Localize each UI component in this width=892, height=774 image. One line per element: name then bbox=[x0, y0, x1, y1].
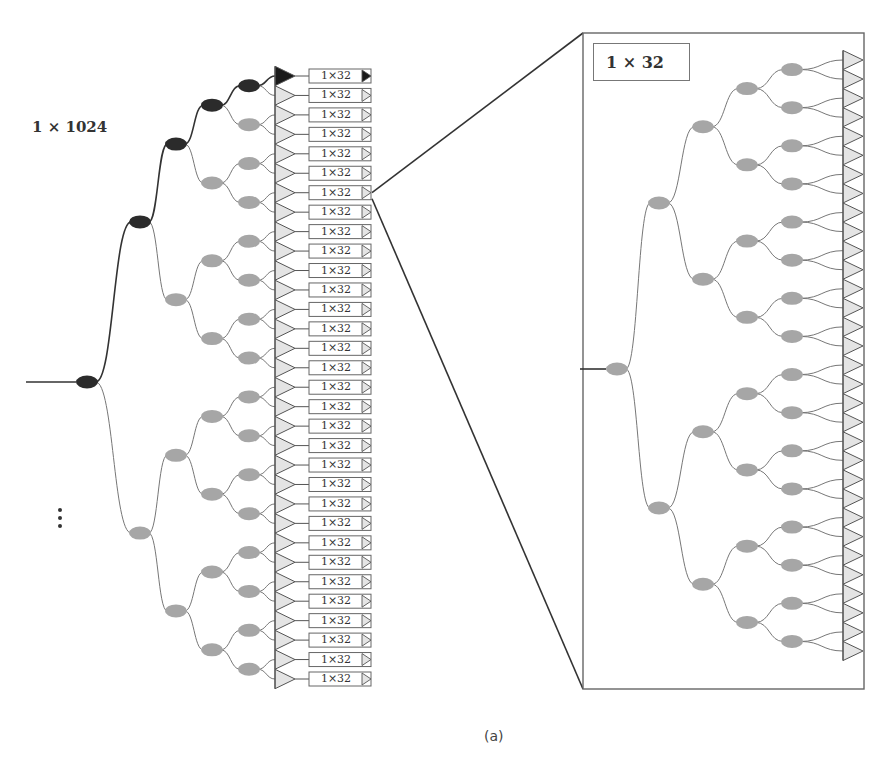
output-triangle bbox=[275, 378, 295, 397]
waveguide-branch bbox=[185, 572, 203, 611]
switch-node bbox=[781, 216, 803, 229]
waveguide-branch bbox=[258, 669, 275, 679]
output-triangle bbox=[275, 416, 295, 435]
switch-node bbox=[238, 546, 260, 559]
waveguide-branch bbox=[258, 319, 275, 329]
module-label: 1×32 bbox=[311, 205, 361, 219]
left-1x1024-tree bbox=[26, 66, 295, 688]
switch-node bbox=[238, 624, 260, 637]
switch-node bbox=[238, 390, 260, 403]
switch-node bbox=[781, 330, 803, 343]
waveguide-branch bbox=[96, 382, 131, 533]
switch-node bbox=[781, 368, 803, 381]
waveguide-branch bbox=[258, 280, 275, 290]
waveguide-branch bbox=[258, 543, 275, 553]
zoom-connector-lines bbox=[372, 33, 583, 689]
module-label: 1×32 bbox=[311, 575, 361, 589]
active-switch-node bbox=[76, 376, 98, 389]
switch-node bbox=[781, 406, 803, 419]
waveguide-branch bbox=[258, 154, 275, 164]
switch-node bbox=[736, 540, 758, 553]
output-triangle bbox=[275, 144, 295, 163]
waveguide-branch bbox=[258, 475, 275, 485]
switch-node bbox=[781, 635, 803, 648]
waveguide-branch bbox=[185, 261, 203, 300]
output-triangle bbox=[275, 319, 295, 338]
module-label: 1×32 bbox=[311, 341, 361, 355]
output-triangle bbox=[275, 553, 295, 572]
waveguide-branch bbox=[258, 202, 275, 212]
switch-node bbox=[692, 425, 714, 438]
output-triangle bbox=[275, 475, 295, 494]
waveguide-branch bbox=[258, 591, 275, 601]
switch-node bbox=[201, 643, 223, 656]
waveguide-branch bbox=[149, 533, 167, 611]
switch-node bbox=[201, 254, 223, 267]
waveguide-branch bbox=[149, 222, 167, 300]
switch-node bbox=[648, 502, 670, 515]
module-label: 1×32 bbox=[311, 127, 361, 141]
active-switch-node bbox=[129, 215, 151, 228]
output-triangle bbox=[275, 397, 295, 416]
output-triangle bbox=[275, 261, 295, 280]
main-size-label: 1 × 1024 bbox=[32, 118, 107, 136]
switch-node bbox=[781, 101, 803, 114]
waveguide-branch bbox=[258, 232, 275, 242]
output-triangle bbox=[275, 280, 295, 299]
tree-diagram-canvas bbox=[0, 0, 892, 774]
waveguide-branch bbox=[258, 387, 275, 397]
waveguide-branch bbox=[221, 553, 240, 572]
waveguide-branch bbox=[258, 553, 275, 563]
output-triangle bbox=[275, 86, 295, 105]
module-label: 1×32 bbox=[311, 497, 361, 511]
output-triangle bbox=[275, 611, 295, 630]
switch-node bbox=[165, 604, 187, 617]
vertical-ellipsis-icon bbox=[55, 508, 65, 534]
switch-node bbox=[781, 254, 803, 267]
waveguide-branch bbox=[221, 164, 240, 183]
module-label: 1×32 bbox=[311, 400, 361, 414]
waveguide-branch bbox=[258, 465, 275, 475]
switch-node bbox=[238, 468, 260, 481]
waveguide-branch bbox=[185, 144, 203, 183]
switch-node bbox=[781, 482, 803, 495]
module-label: 1×32 bbox=[311, 380, 361, 394]
waveguide-branch bbox=[258, 125, 275, 135]
active-output-triangle bbox=[275, 66, 295, 85]
module-label: 1×32 bbox=[311, 225, 361, 239]
switch-node bbox=[692, 578, 714, 591]
module-label: 1×32 bbox=[311, 653, 361, 667]
module-label: 1×32 bbox=[311, 186, 361, 200]
waveguide-branch bbox=[221, 572, 240, 591]
output-triangle bbox=[275, 358, 295, 377]
switch-node bbox=[238, 196, 260, 209]
switch-node bbox=[781, 292, 803, 305]
waveguide-branch bbox=[221, 261, 240, 280]
waveguide-branch bbox=[221, 650, 240, 669]
waveguide-branch bbox=[221, 319, 240, 338]
switch-node bbox=[736, 158, 758, 171]
switch-node bbox=[238, 663, 260, 676]
binary-tree-switch-diagram: 1 × 1024 1×321×321×321×321×321×321×321×3… bbox=[0, 0, 892, 774]
switch-node bbox=[781, 559, 803, 572]
waveguide-branch bbox=[258, 348, 275, 358]
module-label: 1×32 bbox=[311, 439, 361, 453]
waveguide-branch bbox=[221, 416, 240, 435]
switch-node bbox=[201, 566, 223, 579]
switch-node bbox=[781, 63, 803, 76]
output-triangle bbox=[275, 436, 295, 455]
waveguide-branch bbox=[221, 630, 240, 649]
switch-node bbox=[781, 521, 803, 534]
zoomed-1x32-panel bbox=[580, 33, 864, 689]
switch-node bbox=[201, 332, 223, 345]
output-triangle bbox=[275, 650, 295, 669]
module-label: 1×32 bbox=[311, 302, 361, 316]
waveguide-branch bbox=[258, 309, 275, 319]
output-triangle bbox=[275, 494, 295, 513]
waveguide-branch bbox=[185, 300, 203, 339]
waveguide-branch bbox=[258, 76, 275, 86]
switch-node bbox=[736, 463, 758, 476]
module-label: 1×32 bbox=[311, 283, 361, 297]
module-label: 1×32 bbox=[311, 108, 361, 122]
switch-node bbox=[692, 273, 714, 286]
